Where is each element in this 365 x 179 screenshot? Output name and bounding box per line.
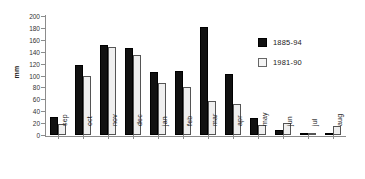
bar-series-1 xyxy=(325,133,333,135)
x-tick-mark xyxy=(83,135,84,139)
x-tick-label: apr xyxy=(236,115,243,126)
y-tick-label: 60 xyxy=(33,96,40,103)
bar-series-1 xyxy=(150,72,158,135)
bar-series-1 xyxy=(225,74,233,135)
y-tick-label: 100 xyxy=(29,72,40,79)
y-tick-label: 180 xyxy=(29,24,40,31)
x-tick-label: oct xyxy=(86,116,93,126)
x-axis-line xyxy=(45,136,346,137)
bar-series-1 xyxy=(125,48,133,135)
y-tick-label: 40 xyxy=(33,108,40,115)
bar-series-1 xyxy=(175,71,183,135)
x-tick-label: dec xyxy=(136,114,143,126)
legend-item: 1981-90 xyxy=(258,58,302,67)
x-tick-label: sep xyxy=(61,114,68,126)
bar-series-2 xyxy=(83,76,91,136)
bar-series-1 xyxy=(100,45,108,135)
legend-item: 1885-94 xyxy=(258,38,302,47)
x-tick-mark xyxy=(158,135,159,139)
x-tick-mark xyxy=(58,135,59,139)
y-tick-mark xyxy=(41,135,45,136)
x-tick-mark xyxy=(133,135,134,139)
legend-swatch-icon xyxy=(258,58,267,67)
x-tick-mark xyxy=(108,135,109,139)
legend-item-label: 1885-94 xyxy=(273,38,302,47)
x-tick-mark xyxy=(183,135,184,139)
y-tick-label: 0 xyxy=(36,132,40,139)
x-tick-mark xyxy=(208,135,209,139)
bar-chart: mm 020406080100120140160180200 sepoctnov… xyxy=(0,0,365,179)
bar-series-1 xyxy=(50,117,58,135)
x-tick-mark xyxy=(258,135,259,139)
x-tick-label: aug xyxy=(336,114,343,126)
bar-series-2 xyxy=(308,133,316,135)
legend-item-label: 1981-90 xyxy=(273,58,302,67)
bar-series-1 xyxy=(300,133,308,135)
y-axis-label: mm xyxy=(7,57,27,87)
y-tick-label: 20 xyxy=(33,120,40,127)
bar-series-1 xyxy=(250,118,258,135)
chart-legend: 1885-94 1981-90 xyxy=(258,38,302,78)
x-tick-label: jun xyxy=(286,116,293,126)
bar-series-2 xyxy=(333,126,341,135)
legend-swatch-icon xyxy=(258,38,267,47)
bar-series-2 xyxy=(258,125,266,135)
x-tick-label: mar xyxy=(211,113,218,126)
bar-series-2 xyxy=(183,87,191,135)
y-tick-label: 140 xyxy=(29,48,40,55)
x-tick-label: nov xyxy=(111,114,118,126)
x-tick-mark xyxy=(308,135,309,139)
y-tick-label: 80 xyxy=(33,84,40,91)
x-tick-label: jul xyxy=(311,118,318,126)
x-tick-mark xyxy=(333,135,334,139)
y-tick-label: 120 xyxy=(29,60,40,67)
y-tick-label: 160 xyxy=(29,36,40,43)
bar-series-2 xyxy=(158,83,166,135)
bar-series-1 xyxy=(275,130,283,135)
x-tick-mark xyxy=(283,135,284,139)
x-tick-label: may xyxy=(261,112,268,126)
y-tick-label: 200 xyxy=(29,13,40,20)
x-tick-mark xyxy=(233,135,234,139)
x-tick-label: feb xyxy=(186,116,193,126)
bar-series-1 xyxy=(200,27,208,135)
bar-series-1 xyxy=(75,65,83,135)
x-tick-label: jan xyxy=(161,116,168,126)
